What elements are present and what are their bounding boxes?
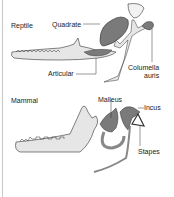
figure: Reptile Quadrate Articular Columella aur… [0,0,174,197]
columella-label-line2: auris [144,72,159,80]
columella-label-line1: Columella [128,64,159,72]
mammal-skull [16,100,145,172]
incus-label: Incus [144,104,161,112]
mammal-label: Mammal [11,97,38,105]
quadrate-label: Quadrate [52,21,81,29]
stapes-label: Stapes [138,148,160,156]
reptile-label: Reptile [11,22,33,30]
articular-label: Articular [48,70,74,78]
mammal-jaw [16,106,98,152]
malleus-label: Malleus [98,96,122,104]
malleus-bone [100,108,118,132]
